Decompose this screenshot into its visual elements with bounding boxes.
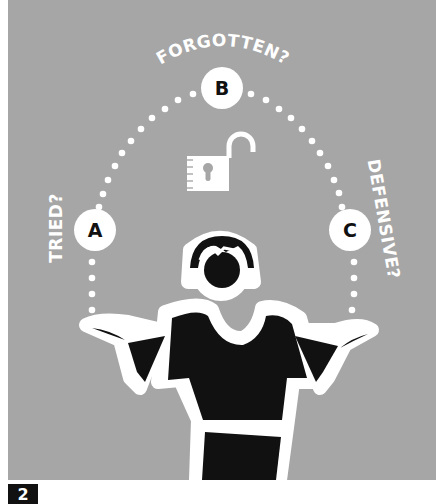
ball-b: B — [201, 67, 243, 109]
svg-text:B: B — [215, 77, 229, 99]
unlocked-padlock-icon — [187, 134, 253, 191]
svg-text:A: A — [88, 219, 103, 241]
ball-a: A — [74, 209, 116, 251]
step-number: 2 — [17, 485, 28, 504]
ball-c: C — [329, 209, 371, 251]
svg-text:C: C — [343, 219, 357, 241]
illustration-panel: FORGOTTEN? TRIED? DEFENSIVE? A B C — [8, 0, 436, 480]
step-number-badge: 2 — [8, 484, 38, 504]
juggling-illustration: FORGOTTEN? TRIED? DEFENSIVE? A B C — [8, 0, 436, 480]
label-tried: TRIED? — [46, 193, 66, 263]
person-figure — [86, 236, 372, 480]
label-defensive: DEFENSIVE? — [364, 157, 405, 280]
label-forgotten: FORGOTTEN? — [153, 30, 293, 69]
